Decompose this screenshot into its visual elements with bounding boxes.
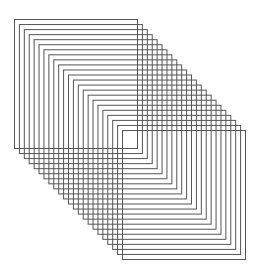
stacked-rectangles-figure — [0, 0, 264, 277]
background — [0, 0, 264, 277]
